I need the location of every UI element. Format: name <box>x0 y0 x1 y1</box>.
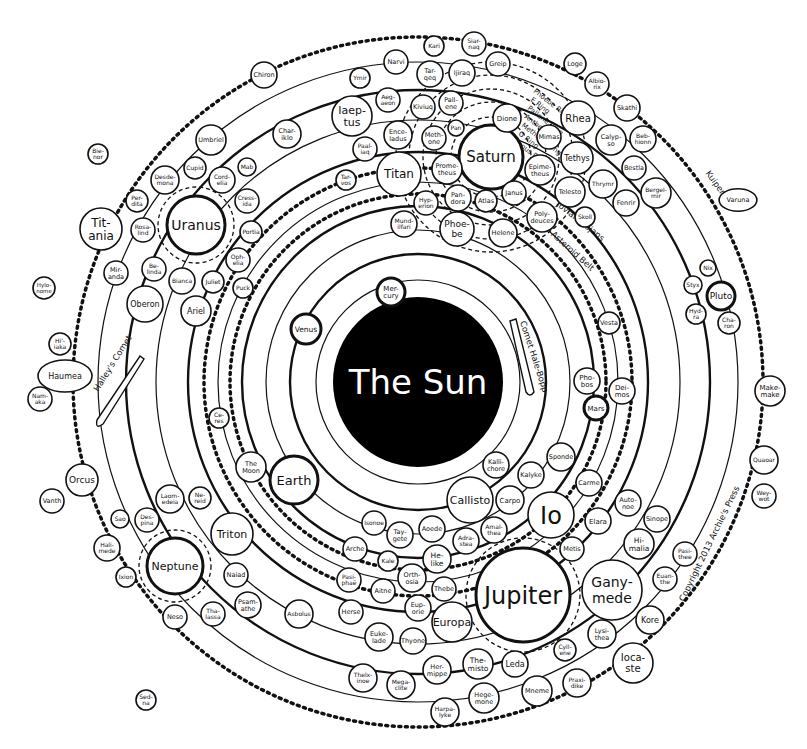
despina-label: Des-pina <box>140 513 154 528</box>
atlas-label: Atlas <box>478 197 495 205</box>
body-polydeuces: Poly-deuces <box>527 202 557 232</box>
body-prometheus: Prome-theus <box>432 154 462 184</box>
body-enceladus: Ence-ladus <box>384 121 412 149</box>
body-thebe: Thebe <box>432 577 456 601</box>
makemake-label: Make-make <box>760 384 781 400</box>
body-hi-iaka: Hi'-iaka <box>49 333 71 355</box>
body-hegemone: Hege-mone <box>469 683 499 713</box>
saturn-label: Saturn <box>466 148 516 166</box>
body-callisto: Callisto <box>447 477 493 523</box>
body-makemake: Make-make <box>755 376 785 406</box>
body-tethys: Tethys <box>561 142 593 174</box>
aoede-label: Aoede <box>422 525 442 533</box>
body-themisto: The-misto <box>463 649 493 679</box>
greip-label: Greip <box>489 60 507 68</box>
pan-label: Pan <box>451 124 462 131</box>
vanth-label: Vanth <box>43 497 62 505</box>
hi-iaka-label: Hi'-iaka <box>54 337 67 351</box>
aitne-label: Aitne <box>375 587 392 595</box>
pluto-label: Pluto <box>710 291 733 301</box>
ceres-label: Ce-res <box>214 411 224 425</box>
body-skoll: Skoll <box>575 207 595 227</box>
body-asbolus: Asbolus <box>285 600 313 628</box>
asbolus-label: Asbolus <box>287 610 310 617</box>
kale-label: Kale <box>382 557 395 564</box>
weywot-label: Wey-wot <box>757 489 772 503</box>
io-label: Io <box>540 502 562 530</box>
adrastea-label: Adra-stea <box>458 534 474 548</box>
body-cupid: Cupid <box>184 157 206 179</box>
halimede-label: Hali-mede <box>98 541 115 555</box>
body-cordelia: Cord-elia <box>209 167 235 193</box>
body-praxidike: Praxi-dike <box>563 669 591 697</box>
miranda-label: Mir-anda <box>108 266 124 281</box>
body-orcus: Orcus <box>66 464 98 496</box>
body-herse: Herse <box>339 600 363 624</box>
body-venus: Venus <box>291 314 321 344</box>
solar-system-diagram: Asteroid BeltJovian TrojansKuiper Belt H… <box>0 0 807 749</box>
prometheus-label: Prome-theus <box>436 162 460 177</box>
sponde-label: Sponde <box>549 453 573 461</box>
body-megaclite: Mega-clite <box>387 671 415 699</box>
body-kore: Kore <box>636 606 664 634</box>
tarqeq-label: Tar-qeq <box>423 67 436 82</box>
nix-label: Nix <box>703 264 713 271</box>
body-vanth: Vanth <box>40 489 64 513</box>
body-mimas: Mimas <box>537 125 561 149</box>
body-sinope: Sinope <box>644 506 670 532</box>
body-greip: Greip <box>486 52 510 76</box>
ijiraq-label: Ijiraq <box>454 69 470 77</box>
jupiter-label: Jupiter <box>482 582 562 610</box>
thalassa-label: Tha-lassa <box>205 607 221 621</box>
body-perdita: Per-dita <box>126 190 148 212</box>
lysithea-label: Lysi-thea <box>595 627 610 642</box>
fenrir-label: Fenrir <box>617 199 636 207</box>
body-titania: Tit-ania <box>80 208 122 250</box>
body-sponde: Sponde <box>547 443 575 471</box>
body-titan: Titan <box>377 152 421 196</box>
body-uranus: Uranus <box>167 196 225 254</box>
body-kalyke: Kalyke <box>518 462 544 488</box>
quaoar-label: Quaoar <box>753 456 776 463</box>
body-taygete: Tay-gete <box>387 522 413 548</box>
mundilfari-label: Mund-ilfari <box>395 217 414 231</box>
cyllene-label: Cyll-ene <box>558 643 571 657</box>
mercury-label: Mer-cury <box>383 285 399 301</box>
themisto-label: The-misto <box>468 656 489 673</box>
body-eukelade: Euke-lade <box>365 623 393 651</box>
naiad-label: Naiad <box>227 571 246 579</box>
body-laomedeia: Laom-edeia <box>156 485 184 513</box>
styx-label: Styx <box>686 281 700 289</box>
body-autonoe: Auto-noe <box>615 490 641 516</box>
janus-label: Janus <box>504 189 523 197</box>
body-ariel: Ariel <box>181 296 211 326</box>
body-despina: Des-pina <box>135 508 159 532</box>
body-portia: Portia <box>240 221 262 243</box>
haumea-label: Haumea <box>48 372 82 381</box>
body-kallichore: Kalli-chore <box>483 452 509 478</box>
kallichore-label: Kalli-chore <box>487 458 505 473</box>
orthosia-label: Orth-osia <box>404 571 421 586</box>
body-psamathe: Psam-athe <box>235 592 261 618</box>
body-aegaeon: Aeg-aeon <box>376 88 400 112</box>
body-saturn: Saturn <box>459 125 523 189</box>
metis-label: Metis <box>563 545 581 553</box>
neptune-label: Neptune <box>151 560 198 573</box>
body-paaliaq: Paal-iaq <box>353 137 377 161</box>
body-mercury: Mer-cury <box>377 278 405 306</box>
body-hydra: Hyd-ra <box>686 304 706 324</box>
body-mnemne: Mneme <box>522 676 552 706</box>
body-aoede: Aoede <box>419 516 445 542</box>
body-carpo: Carpo <box>496 486 524 514</box>
body-thrymr: Thrymr <box>589 170 617 198</box>
aegaeon-label: Aeg-aeon <box>381 93 396 107</box>
body-weywot: Wey-wot <box>752 484 776 508</box>
body-pasithee: Pasi-thee <box>673 542 697 566</box>
body-juliet: Juliet <box>202 271 224 293</box>
body-helene: Helene <box>489 219 517 247</box>
loge-label: Loge <box>567 60 583 68</box>
body-chiron: Chiron <box>251 62 277 88</box>
laomedeia-label: Laom-edeia <box>161 492 180 506</box>
body-albiorix: Albio-rix <box>585 72 609 96</box>
body-telesto: Telesto <box>555 177 585 207</box>
